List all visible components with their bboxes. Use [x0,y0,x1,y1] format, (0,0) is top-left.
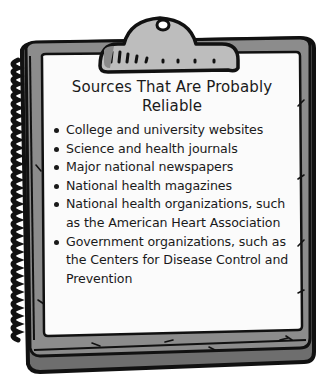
list-item-text: Government organizations, such as the Ce… [66,234,288,286]
list-item-text: Major national newspapers [66,159,233,174]
list-item: National health magazines [52,177,292,196]
list-item: Major national newspapers [52,158,292,177]
reliable-sources-card: Sources That Are Probably Reliable Colle… [52,78,292,288]
list-item-text: National health organizations, such as t… [66,196,285,230]
list-item-text: National health magazines [66,178,232,193]
bullet-icon [54,147,59,152]
list-item-text: College and university websites [66,122,263,137]
sources-list: College and university websites Science … [52,121,292,288]
bullet-icon [54,128,59,133]
card-title-line-2: Reliable [52,97,292,116]
card-title: Sources That Are Probably Reliable [52,78,292,116]
list-item: Government organizations, such as the Ce… [52,233,292,289]
list-item: National health organizations, such as t… [52,195,292,232]
list-item: Science and health journals [52,140,292,159]
card-title-line-1: Sources That Are Probably [52,78,292,97]
bullet-icon [54,202,59,207]
list-item-text: Science and health journals [66,141,238,156]
bullet-icon [54,165,59,170]
list-item: College and university websites [52,121,292,140]
clipboard-illustration: Sources That Are Probably Reliable Colle… [0,0,322,383]
bullet-icon [54,184,59,189]
bullet-icon [54,240,59,245]
